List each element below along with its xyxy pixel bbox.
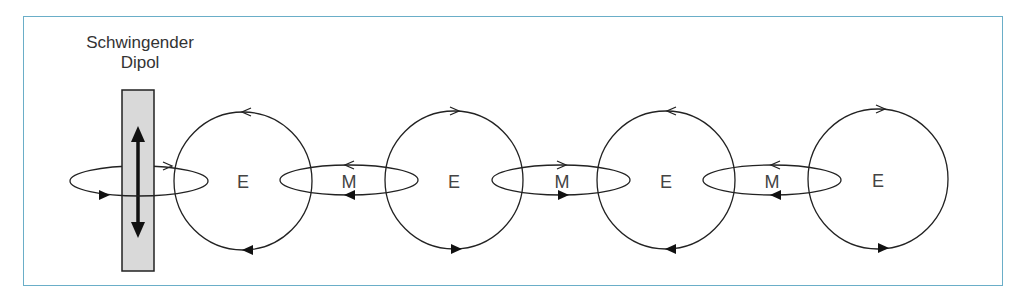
arrow-right-filled-icon: [99, 190, 110, 200]
arrow-left-filled-icon: [242, 245, 253, 255]
arrow-right-filled-icon: [451, 244, 462, 254]
m-label-3: M: [765, 172, 780, 192]
e-label-1: E: [237, 172, 249, 192]
open-arrowheads: [163, 105, 885, 170]
e-label-3: E: [660, 172, 672, 192]
arrow-left-filled-icon: [665, 244, 676, 254]
m-label-1: M: [342, 172, 357, 192]
m-label-2: M: [555, 172, 570, 192]
e-label-4: E: [872, 171, 884, 191]
arrow-right-icon: [163, 162, 172, 170]
arrow-right-filled-icon: [878, 243, 889, 253]
e-label-2: E: [448, 172, 460, 192]
dipole-field-diagram: E M E M E M E: [0, 0, 1018, 303]
